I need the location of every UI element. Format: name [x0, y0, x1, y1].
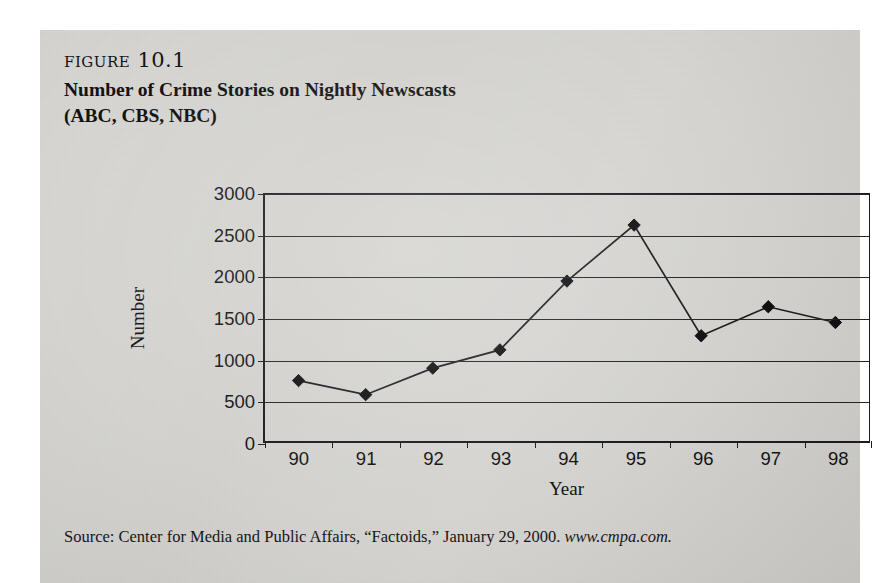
y-axis-tick-label: 1000	[214, 350, 255, 372]
y-gridline	[265, 236, 869, 237]
x-axis-tick	[737, 441, 738, 448]
y-axis-tick-label: 500	[224, 391, 255, 413]
y-gridline	[265, 402, 869, 403]
y-gridline	[265, 194, 869, 195]
figure-subtitle: (ABC, CBS, NBC)	[64, 103, 217, 129]
source-text: Source: Center for Media and Public Affa…	[64, 527, 565, 546]
x-axis-tick	[400, 441, 401, 448]
y-gridline	[265, 319, 869, 320]
x-axis-tick-label: 96	[693, 448, 714, 470]
x-axis-tick	[535, 441, 536, 448]
figure-title: Number of Crime Stories on Nightly Newsc…	[64, 77, 456, 103]
y-axis-tick	[258, 277, 265, 278]
y-axis-tick	[258, 236, 265, 237]
series-polyline	[299, 225, 836, 395]
scanned-page: figure 10.1 Number of Crime Stories on N…	[40, 30, 860, 583]
x-axis-tick	[670, 441, 671, 448]
y-axis-tick-label: 0	[245, 433, 255, 455]
x-axis-tick	[265, 441, 266, 448]
x-axis-tick-label: 92	[423, 448, 444, 470]
x-axis-tick	[467, 441, 468, 448]
x-axis-tick-label: 93	[491, 448, 512, 470]
line-chart: Number Year 0500100015002000250030009091…	[100, 160, 840, 510]
x-axis-tick	[805, 441, 806, 448]
y-axis-tick	[258, 319, 265, 320]
y-axis-tick-label: 1500	[214, 308, 255, 330]
x-axis-tick-label: 98	[828, 448, 849, 470]
x-axis-title: Year	[263, 478, 870, 500]
x-axis-tick-label: 94	[558, 448, 579, 470]
source-note: Source: Center for Media and Public Affa…	[64, 527, 672, 547]
data-point-marker	[762, 301, 774, 313]
data-point-marker	[292, 374, 304, 386]
data-point-marker	[427, 362, 439, 374]
y-gridline	[265, 277, 869, 278]
y-axis-tick	[258, 402, 265, 403]
y-axis-title: Number	[127, 287, 149, 349]
y-axis-tick	[258, 194, 265, 195]
x-axis-tick-label: 91	[356, 448, 377, 470]
x-axis-tick	[602, 441, 603, 448]
x-axis-tick-label: 90	[288, 448, 309, 470]
y-gridline	[265, 361, 869, 362]
y-axis-tick-label: 2000	[214, 266, 255, 288]
x-axis-tick	[332, 441, 333, 448]
y-axis-tick-label: 2500	[214, 225, 255, 247]
y-axis-tick	[258, 444, 265, 445]
y-axis-tick	[258, 361, 265, 362]
x-axis-tick-label: 95	[626, 448, 647, 470]
figure-label: figure 10.1	[64, 48, 186, 72]
x-axis-tick-label: 97	[761, 448, 782, 470]
y-axis-tick-label: 3000	[214, 183, 255, 205]
source-url: www.cmpa.com.	[565, 527, 672, 546]
plot-area: 0500100015002000250030009091929394959697…	[263, 193, 870, 443]
data-point-marker	[695, 330, 707, 342]
data-point-marker	[359, 388, 371, 400]
